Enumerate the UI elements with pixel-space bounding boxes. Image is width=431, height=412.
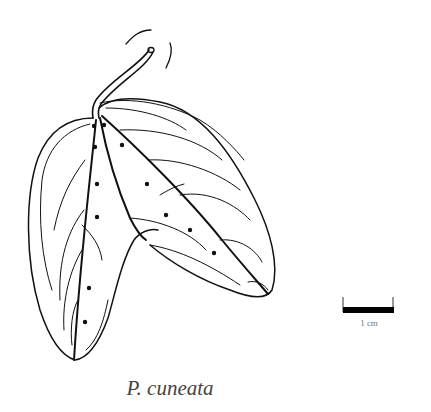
scale-bar: [343, 297, 394, 313]
species-name: P. cuneata: [126, 376, 213, 401]
botanical-figure: 1 cm P. cuneata: [0, 0, 431, 412]
figure-caption: P. cuneata: [0, 376, 340, 401]
gland-dots: [83, 123, 216, 324]
right-leaflet-outline: [99, 99, 275, 297]
scale-bar-label: 1 cm: [343, 318, 395, 328]
tendril-left: [126, 30, 151, 44]
tendril-right: [166, 43, 171, 68]
leaf-drawing: [0, 0, 431, 412]
